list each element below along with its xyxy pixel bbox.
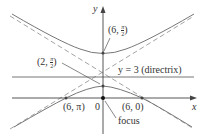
focus-label: focus bbox=[118, 116, 140, 126]
label-6-0: (6, 0) bbox=[122, 102, 144, 112]
pointer-focus bbox=[105, 101, 116, 118]
x-axis-arrow-icon bbox=[190, 96, 197, 101]
point-6-0 bbox=[141, 97, 144, 100]
x-axis-label: x bbox=[192, 102, 196, 112]
y-axis-arrow-icon bbox=[101, 6, 106, 13]
focus-point bbox=[101, 96, 105, 100]
origin-label: 0 bbox=[95, 102, 100, 112]
point-6-pi-2 bbox=[102, 52, 105, 55]
label-6-pi: (6, π) bbox=[63, 102, 85, 112]
label-6-pi-2: (6, π2) bbox=[108, 24, 128, 37]
pointer-2-pi-2 bbox=[62, 63, 100, 84]
pointer-6-pi-2 bbox=[104, 38, 110, 51]
point-6-pi bbox=[65, 97, 68, 100]
label-2-pi-2: (2, π2) bbox=[37, 56, 57, 69]
point-2-pi-2 bbox=[102, 85, 105, 88]
directrix-label: y = 3 (directrix) bbox=[118, 65, 182, 75]
y-axis-label: y bbox=[93, 4, 97, 14]
